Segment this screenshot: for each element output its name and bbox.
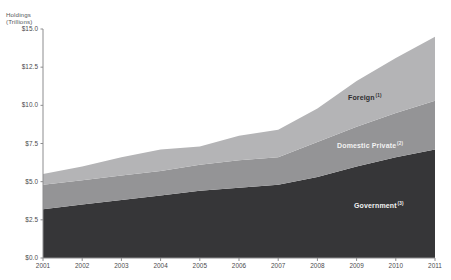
- x-axis-tick-label: 2005: [193, 262, 207, 269]
- x-axis-tick-label: 2009: [349, 262, 363, 269]
- series-label-footnote-marker: (2): [397, 141, 403, 146]
- x-axis-tick-label: 2001: [36, 262, 50, 269]
- series-label-footnote-marker: (3): [398, 201, 404, 206]
- series-label-text: Government: [354, 202, 397, 209]
- x-axis-tick-label: 2010: [389, 262, 403, 269]
- x-axis-tick-label: 2011: [428, 262, 442, 269]
- series-label-footnote-marker: (1): [376, 93, 382, 98]
- series-label-government: Government(3): [354, 202, 404, 209]
- x-axis-tick-label: 2006: [232, 262, 246, 269]
- x-axis-tick-label: 2007: [271, 262, 285, 269]
- stacked-area-chart: Holdings (Trillions) $0.0$2.5$5.0$7.5$10…: [0, 0, 451, 280]
- x-axis-tick-label: 2004: [153, 262, 167, 269]
- series-label-foreign: Foreign(1): [348, 94, 382, 101]
- x-axis-tick-label: 2003: [114, 262, 128, 269]
- series-label-text: Foreign: [348, 94, 375, 101]
- series-label-domestic-private: Domestic Private(2): [337, 142, 403, 149]
- x-axis-tick-label: 2008: [310, 262, 324, 269]
- x-axis-tick-label: 2002: [75, 262, 89, 269]
- plot-area: [0, 0, 451, 280]
- series-label-text: Domestic Private: [337, 142, 396, 149]
